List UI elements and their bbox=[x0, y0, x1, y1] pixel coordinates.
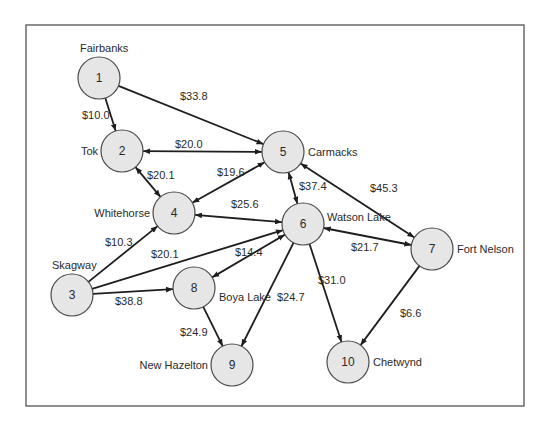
cost-label: $25.6 bbox=[231, 198, 259, 210]
cost-label: $14.4 bbox=[235, 246, 263, 258]
cost-label: $10.3 bbox=[105, 236, 133, 248]
node-number: 10 bbox=[341, 355, 355, 369]
node-number: 5 bbox=[280, 145, 287, 159]
node-city-label: New Hazelton bbox=[140, 359, 208, 371]
node-city-label: Tok bbox=[81, 145, 99, 157]
node-city-label: Carmacks bbox=[308, 146, 358, 158]
cost-label: $19.6 bbox=[217, 166, 245, 178]
node-number: 9 bbox=[229, 358, 236, 372]
node-number: 6 bbox=[300, 217, 307, 231]
node-number: 4 bbox=[171, 206, 178, 220]
cost-label: $6.6 bbox=[400, 307, 421, 319]
node-number: 1 bbox=[96, 71, 103, 85]
cost-label: $21.7 bbox=[351, 241, 379, 253]
cost-label: $38.8 bbox=[115, 295, 143, 307]
node-city-label: Boya Lake bbox=[219, 291, 271, 303]
node-number: 2 bbox=[119, 144, 126, 158]
cost-label: $24.9 bbox=[180, 326, 208, 338]
cost-label: $33.8 bbox=[180, 90, 208, 102]
cost-label: $20.1 bbox=[147, 169, 175, 181]
node-city-label: Chetwynd bbox=[373, 356, 422, 368]
node-number: 7 bbox=[429, 242, 436, 256]
edge-2-5 bbox=[143, 151, 262, 152]
cost-label: $45.3 bbox=[370, 182, 398, 194]
cost-label: $37.4 bbox=[299, 180, 327, 192]
node-city-label: Fort Nelson bbox=[457, 243, 514, 255]
cost-label: $20.1 bbox=[151, 248, 179, 260]
node-city-label: Skagway bbox=[52, 259, 97, 271]
cost-label: $10.0 bbox=[82, 109, 110, 121]
cost-label: $20.0 bbox=[175, 138, 203, 150]
cost-label: $24.7 bbox=[277, 291, 305, 303]
node-city-label: Watson Lake bbox=[327, 211, 391, 223]
network-diagram: $10.0$33.8$20.0$20.1$19.6$25.6$37.4$45.3… bbox=[0, 0, 546, 422]
node-city-label: Fairbanks bbox=[80, 42, 129, 54]
node-number: 3 bbox=[69, 288, 76, 302]
node-city-label: Whitehorse bbox=[94, 207, 150, 219]
cost-label: $31.0 bbox=[318, 274, 346, 286]
node-number: 8 bbox=[191, 281, 198, 295]
